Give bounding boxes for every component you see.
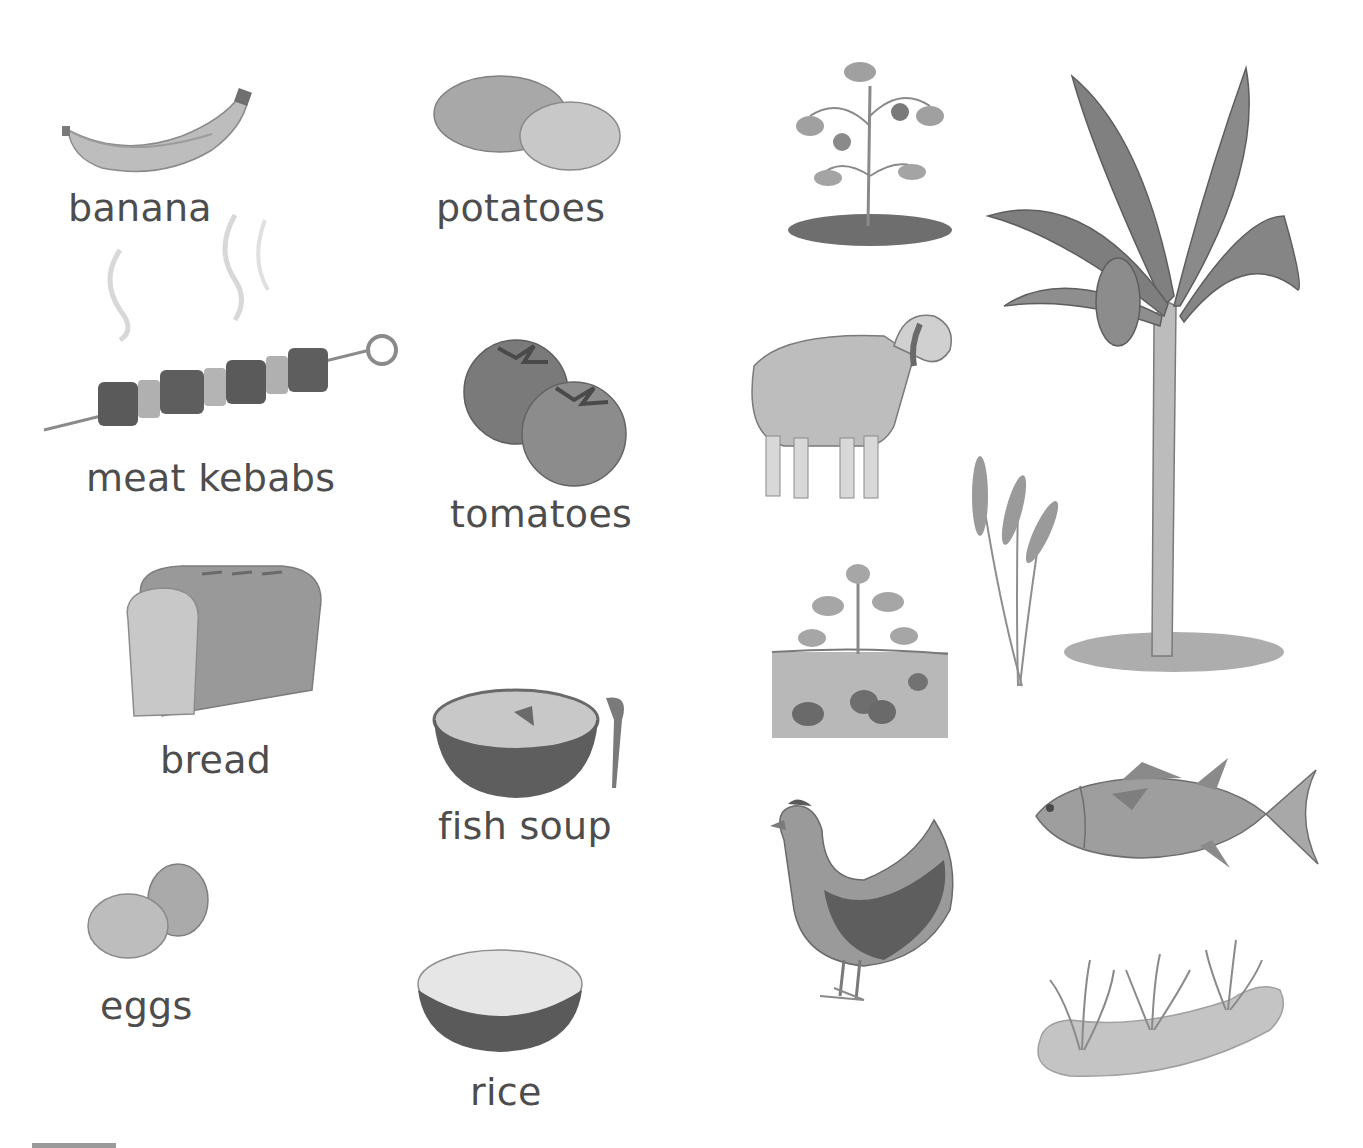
potato-plant-icon [772,562,948,740]
meat-kebabs-icon [40,210,400,450]
tomatoes-icon [458,330,633,490]
tuna-fish-icon [1032,756,1322,880]
food-label-meat-kebabs: meat kebabs [86,456,335,500]
rice-bowl-icon [412,946,592,1056]
page-footer-bar [32,1143,116,1148]
banana-icon [62,88,252,178]
potatoes-icon [430,72,625,172]
fish-soup-icon [430,680,635,810]
wheat-icon [958,440,1078,690]
sheep-icon [744,306,956,502]
food-label-tomatoes: tomatoes [450,492,632,536]
chicken-icon [764,800,960,1006]
bread-icon [122,560,327,720]
food-label-eggs: eggs [100,984,193,1028]
food-label-bread: bread [160,738,271,782]
food-label-rice: rice [470,1070,542,1114]
tomato-plant-icon [780,56,960,246]
eggs-icon [86,862,212,962]
food-label-fish-soup: fish soup [438,804,612,848]
food-label-potatoes: potatoes [436,186,605,230]
rice-paddy-icon [1030,930,1290,1080]
